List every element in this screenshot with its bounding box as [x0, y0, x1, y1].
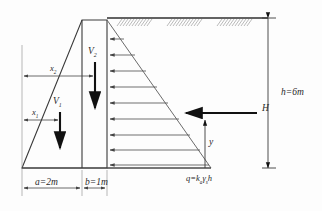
h-force-label: H	[262, 104, 269, 114]
ground-hatch-icon	[167, 19, 202, 26]
ground-hatch-icon	[217, 19, 252, 26]
ground-hatch-group	[117, 19, 252, 26]
base-a-label: a=2m	[35, 178, 58, 188]
v1-label: V1	[53, 97, 62, 109]
base-b-label: b=1m	[85, 178, 108, 188]
pressure-triangle	[107, 20, 211, 168]
y-dimension-label: y	[209, 138, 213, 148]
pressure-formula-label: q=kaγsh	[186, 174, 212, 185]
x2-label: x2	[50, 64, 56, 75]
height-dimension	[262, 18, 276, 168]
pressure-arrows	[110, 39, 209, 165]
v2-label: V2	[88, 47, 97, 59]
force-arrows-vertical	[60, 62, 95, 148]
height-label: h=6m	[281, 88, 304, 98]
retaining-wall-diagram: V2 V1 x2 x1 H y h=6m a=2m b=1m q=kaγsh	[0, 0, 322, 211]
ground-hatch-icon	[117, 19, 152, 26]
x1-label: x1	[32, 108, 38, 119]
